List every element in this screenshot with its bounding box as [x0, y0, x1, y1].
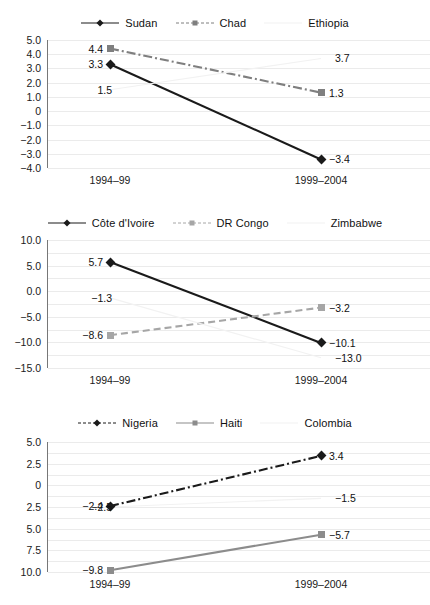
y-axis-tick-label: 4.0	[26, 48, 41, 60]
data-point-label: −2.5	[91, 501, 112, 513]
y-axis-tick-label: 10.0	[21, 566, 41, 578]
legend-entry-c-te-d-ivoire[interactable]: Côte d'Ivoire	[48, 217, 155, 229]
y-axis-tick-label: 1.0	[26, 91, 41, 103]
x-axis-tick-label: 1994–99	[90, 578, 131, 590]
legend-label: DR Congo	[217, 217, 269, 229]
series-line	[110, 498, 321, 507]
data-point-label: 3.7	[335, 52, 350, 64]
legend-swatch-square-icon	[176, 17, 214, 29]
y-axis-tick-label: 3.0	[26, 62, 41, 74]
data-point-label: −1.5	[335, 492, 356, 504]
legend-label: Nigeria	[122, 417, 158, 429]
gridline	[48, 572, 430, 573]
square-marker-icon	[189, 221, 194, 226]
chart-legend: NigeriaHaitiColombia	[0, 414, 430, 432]
data-point-label: −3.2	[329, 302, 350, 314]
legend-swatch-diamond-icon	[48, 217, 86, 229]
y-axis-tick-label: 5.0	[26, 260, 41, 272]
legend-label: Ethiopia	[308, 17, 349, 29]
data-point-label: −9.8	[82, 564, 103, 576]
plot-area: 10.05.00.0−5.0−10.0−15.01994–991999–2004…	[47, 240, 383, 368]
series-line	[110, 456, 321, 506]
chart-legend: SudanChadEthiopia	[0, 14, 430, 32]
data-point-label: −8.6	[82, 329, 103, 341]
y-axis-tick-label: 10.0	[21, 234, 41, 246]
legend-swatch-line	[264, 17, 302, 29]
y-axis-tick-label: −2.0	[20, 134, 41, 146]
square-marker-icon	[192, 21, 197, 26]
data-point-label: 5.7	[88, 256, 103, 268]
legend-entry-colombia[interactable]: Colombia	[260, 417, 351, 429]
series-line	[110, 298, 321, 358]
y-axis-tick-label: 7.5	[26, 544, 41, 556]
y-axis-tick-label: 0.0	[26, 285, 41, 297]
data-point-marker	[107, 567, 114, 574]
legend-label: Chad	[220, 17, 247, 29]
y-axis-tick-label: −4.0	[20, 162, 41, 174]
legend-swatch-diamond-icon	[81, 17, 119, 29]
legend-entry-ethiopia[interactable]: Ethiopia	[264, 17, 349, 29]
y-axis-tick-label: −10.0	[14, 336, 41, 348]
data-point-marker	[107, 45, 114, 52]
data-point-label: −5.7	[329, 529, 350, 541]
data-point-label: 1.5	[97, 84, 112, 96]
diamond-marker-icon	[63, 219, 70, 226]
y-axis-tick-label: −1.0	[20, 119, 41, 131]
gridline	[48, 168, 430, 169]
data-point-label: 3.4	[329, 450, 344, 462]
x-axis-tick-label: 1999–2004	[295, 174, 348, 186]
x-axis-tick-label: 1994–99	[90, 174, 131, 186]
y-axis-tick-label: 0	[35, 105, 41, 117]
data-point-label: 1.3	[329, 87, 344, 99]
legend-label: Colombia	[304, 417, 351, 429]
square-marker-icon	[192, 421, 197, 426]
y-axis-tick-label: −15.0	[14, 362, 41, 374]
series-line	[110, 64, 321, 159]
y-axis-tick-label: 5.0	[26, 436, 41, 448]
data-point-label: −13.0	[335, 352, 362, 364]
x-axis-tick-label: 1999–2004	[295, 578, 348, 590]
y-axis-tick-label: −5.0	[20, 311, 41, 323]
data-point-marker	[318, 531, 325, 538]
legend-swatch-line	[287, 217, 325, 229]
chart-panel-3: NigeriaHaitiColombia5.02.502.55.07.510.0…	[0, 400, 430, 605]
data-point-marker	[318, 89, 325, 96]
data-point-label: −10.1	[329, 337, 356, 349]
chart-panel-1: SudanChadEthiopia5.04.03.02.01.00−1.0−2.…	[0, 0, 430, 200]
gridline	[48, 368, 430, 369]
legend-label: Haiti	[220, 417, 243, 429]
legend-entry-zimbabwe[interactable]: Zimbabwe	[287, 217, 383, 229]
legend-swatch-diamond-icon	[78, 417, 116, 429]
data-point-label: 3.3	[88, 58, 103, 70]
legend-entry-nigeria[interactable]: Nigeria	[78, 417, 158, 429]
legend-entry-sudan[interactable]: Sudan	[81, 17, 157, 29]
y-axis-tick-label: 2.5	[26, 458, 41, 470]
series-line	[110, 535, 321, 571]
y-axis-tick-label: 5.0	[26, 34, 41, 46]
legend-label: Zimbabwe	[331, 217, 383, 229]
legend-entry-chad[interactable]: Chad	[176, 17, 247, 29]
legend-swatch-square-icon	[176, 417, 214, 429]
data-point-label: −3.4	[329, 153, 350, 165]
y-axis-tick-label: 5.0	[26, 523, 41, 535]
data-point-label: −1.3	[91, 292, 112, 304]
legend-label: Côte d'Ivoire	[92, 217, 155, 229]
legend-swatch-line	[260, 417, 298, 429]
data-point-marker	[107, 332, 114, 339]
chart-panel-2: Côte d'IvoireDR CongoZimbabwe10.05.00.0−…	[0, 200, 430, 400]
y-axis-tick-label: 0	[35, 479, 41, 491]
x-axis-tick-label: 1999–2004	[295, 374, 348, 386]
diamond-marker-icon	[97, 19, 104, 26]
x-axis-tick-label: 1994–99	[90, 374, 131, 386]
y-axis-tick-label: 2.0	[26, 77, 41, 89]
series-line	[110, 49, 321, 93]
y-axis-tick-label: −3.0	[20, 148, 41, 160]
legend-entry-haiti[interactable]: Haiti	[176, 417, 243, 429]
legend-swatch-square-icon	[173, 217, 211, 229]
data-point-label: 4.4	[88, 43, 103, 55]
legend-entry-dr-congo[interactable]: DR Congo	[173, 217, 269, 229]
y-axis-tick-label: 2.5	[26, 501, 41, 513]
series-line	[110, 262, 321, 343]
data-point-marker	[318, 304, 325, 311]
legend-label: Sudan	[125, 17, 157, 29]
